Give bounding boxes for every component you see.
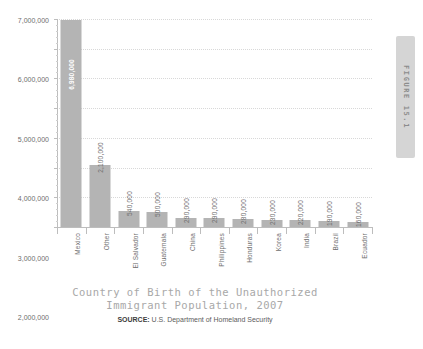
y-axis-label: 6,000,000 — [18, 76, 49, 83]
y-axis-minor-tick — [56, 114, 58, 115]
x-axis-category-label: Philippines — [218, 233, 225, 267]
x-axis-tick — [372, 228, 373, 234]
y-axis-label: 7,000,000 — [18, 17, 49, 24]
y-axis-minor-tick — [56, 162, 58, 163]
x-axis-category-label: Korea — [275, 233, 282, 251]
y-axis-minor-tick — [56, 96, 58, 97]
y-axis-minor-tick — [56, 120, 58, 121]
chart-source: SOURCE: U.S. Department of Homeland Secu… — [30, 316, 360, 323]
bar-value-label: 280,000 — [240, 199, 247, 224]
x-axis-tick — [286, 228, 287, 234]
x-axis-category-label: India — [303, 233, 310, 248]
y-axis-label: 5,000,000 — [18, 135, 49, 142]
x-axis-tick — [343, 228, 344, 234]
y-axis-minor-tick — [56, 67, 58, 68]
x-axis-category-label: China — [189, 233, 196, 251]
x-axis-tick — [57, 228, 58, 234]
bar-value-label: 220,000 — [297, 201, 304, 226]
y-axis-tick: 1,000,000 — [54, 197, 58, 198]
y-axis-minor-tick — [56, 209, 58, 210]
y-axis-tick: 3,000,000 — [54, 138, 58, 139]
y-axis-minor-tick — [56, 72, 58, 73]
y-axis-minor-tick — [56, 215, 58, 216]
x-axis-category-label: Ecuador — [361, 233, 368, 259]
x-axis-category-label: Guatemala — [160, 233, 167, 267]
bar-group: 160,000 — [343, 19, 372, 227]
y-axis: 01,000,0002,000,0003,000,0004,000,0005,0… — [57, 19, 58, 228]
bar-group: 220,000 — [286, 19, 315, 227]
bar-group: 280,000 — [229, 19, 258, 227]
bar-group: 6,980,000 — [57, 19, 86, 227]
y-axis-label: 4,000,000 — [18, 195, 49, 202]
y-axis-minor-tick — [56, 191, 58, 192]
y-axis-minor-tick — [56, 132, 58, 133]
x-axis-tick — [86, 228, 87, 234]
y-axis-minor-tick — [56, 55, 58, 56]
y-axis-minor-tick — [56, 221, 58, 222]
chart-title-line-1: Country of Birth of the Unauthorized — [30, 286, 360, 299]
y-axis-minor-tick — [56, 102, 58, 103]
y-axis-minor-tick — [56, 43, 58, 44]
x-axis-category-label: Mexico — [74, 233, 81, 255]
x-axis-tick — [229, 228, 230, 234]
x-axis-category-label: El Salvador — [132, 233, 139, 268]
y-axis-minor-tick — [56, 37, 58, 38]
x-axis-tick — [315, 228, 316, 234]
figure-tab-label: FIGURE 15.1 — [402, 65, 410, 129]
bar[interactable] — [89, 165, 110, 227]
y-axis-minor-tick — [56, 203, 58, 204]
y-axis-tick: 2,000,000 — [54, 168, 58, 169]
bar-value-label: 6,980,000 — [68, 59, 75, 90]
y-axis-minor-tick — [56, 144, 58, 145]
bar-group: 230,000 — [257, 19, 286, 227]
y-axis-minor-tick — [56, 174, 58, 175]
x-axis-category-label: Brazil — [332, 233, 339, 250]
y-axis-minor-tick — [56, 185, 58, 186]
bar-value-label: 160,000 — [354, 202, 361, 227]
bar-group: 190,000 — [315, 19, 344, 227]
y-axis-minor-tick — [56, 126, 58, 127]
y-axis-minor-tick — [56, 31, 58, 32]
bar-value-label: 290,000 — [211, 198, 218, 223]
y-axis-tick: 5,000,000 — [54, 78, 58, 79]
bar-value-label: 540,000 — [125, 191, 132, 216]
x-axis-tick — [200, 228, 201, 234]
source-text: U.S. Department of Homeland Security — [150, 316, 273, 323]
y-axis-minor-tick — [56, 84, 58, 85]
bar-value-label: 190,000 — [326, 201, 333, 226]
x-axis-tick — [172, 228, 173, 234]
y-axis-minor-tick — [56, 61, 58, 62]
x-axis — [57, 227, 373, 228]
source-label: SOURCE: — [117, 316, 149, 323]
y-axis-minor-tick — [56, 25, 58, 26]
bar-value-label: 2,100,000 — [96, 142, 103, 173]
y-axis-tick: 6,000,000 — [54, 49, 58, 50]
x-axis-category-label: Other — [103, 233, 110, 250]
x-axis-category-label: Honduras — [246, 233, 253, 263]
y-axis-minor-tick — [56, 179, 58, 180]
y-axis-minor-tick — [56, 150, 58, 151]
x-axis-tick — [114, 228, 115, 234]
bar-group: 540,000 — [114, 19, 143, 227]
bar-group: 290,000 — [200, 19, 229, 227]
x-axis-tick — [257, 228, 258, 234]
chart-title: Country of Birth of the Unauthorized Imm… — [30, 286, 360, 312]
bar-value-label: 290,000 — [182, 198, 189, 223]
bar-value-label: 500,000 — [154, 192, 161, 217]
chart-title-line-2: Immigrant Population, 2007 — [30, 299, 360, 312]
bar-chart: 6,980,0002,100,000540,000500,000290,0002… — [0, 0, 390, 349]
plot-area: 6,980,0002,100,000540,000500,000290,0002… — [57, 19, 372, 227]
bar[interactable] — [61, 20, 82, 227]
bar-value-label: 230,000 — [268, 200, 275, 225]
bar-group: 500,000 — [143, 19, 172, 227]
figure-tab: FIGURE 15.1 — [396, 36, 415, 158]
y-axis-tick: 7,000,000 — [54, 19, 58, 20]
y-axis-label: 3,000,000 — [18, 254, 49, 261]
bar-group: 2,100,000 — [86, 19, 115, 227]
y-axis-tick: 4,000,000 — [54, 108, 58, 109]
x-axis-tick — [143, 228, 144, 234]
bar-group: 290,000 — [172, 19, 201, 227]
y-axis-minor-tick — [56, 156, 58, 157]
y-axis-minor-tick — [56, 90, 58, 91]
